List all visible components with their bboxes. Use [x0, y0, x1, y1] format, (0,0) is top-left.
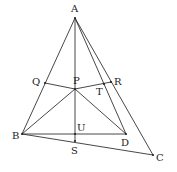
point-B: [21, 133, 23, 135]
segment-QP: [45, 83, 75, 89]
label-C: C: [156, 152, 164, 163]
label-U: U: [77, 122, 85, 133]
point-labels: A B C D P Q R T U S: [12, 3, 164, 163]
point-S: [74, 140, 76, 142]
point-C: [152, 154, 154, 156]
point-D: [125, 133, 127, 135]
segment-AB: [22, 18, 75, 134]
segment-BC: [22, 134, 153, 155]
line-segments: [22, 18, 153, 155]
diagram-canvas: A B C D P Q R T U S: [0, 0, 177, 172]
label-D: D: [121, 137, 129, 148]
label-A: A: [70, 3, 79, 14]
point-P: [74, 88, 76, 90]
label-T: T: [96, 86, 103, 97]
segment-BP: [22, 89, 75, 134]
point-U: [74, 133, 76, 135]
label-B: B: [12, 130, 19, 141]
label-Q: Q: [32, 76, 40, 87]
geometry-diagram: A B C D P Q R T U S: [0, 0, 177, 172]
point-T: [103, 83, 105, 85]
point-Q: [44, 82, 46, 84]
point-A: [74, 17, 76, 19]
point-R: [110, 81, 112, 83]
label-S: S: [71, 145, 78, 156]
label-P: P: [73, 75, 80, 86]
label-R: R: [114, 76, 122, 87]
